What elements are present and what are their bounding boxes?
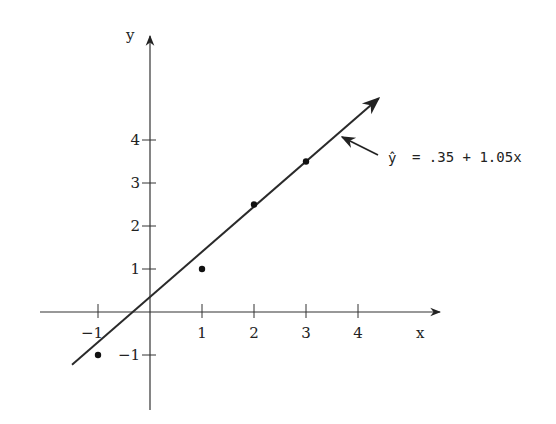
y-tick-label: 2	[130, 217, 140, 235]
y-tick-label: 3	[130, 174, 140, 192]
annotation-arrow	[342, 137, 378, 155]
equation-text: = .35 + 1.05x	[412, 149, 522, 165]
x-tick-label: 3	[301, 324, 311, 342]
y-tick-label: −1	[118, 346, 140, 364]
y-tick-label: 1	[130, 260, 140, 278]
data-point	[303, 158, 309, 164]
x-axis-label: x	[416, 324, 425, 342]
fitted-line	[72, 98, 379, 364]
y-tick-label: 4	[130, 131, 140, 149]
x-tick-label: 2	[249, 324, 259, 342]
data-point	[251, 201, 257, 207]
regression-line	[72, 98, 379, 364]
y-axis-label: y	[125, 26, 135, 44]
ticks: −11234−11234	[81, 131, 363, 364]
data-point	[95, 352, 101, 358]
regression-plot: −11234−11234 x y ŷ = .35 + 1.05x	[0, 0, 556, 424]
equation-annotation: ŷ = .35 + 1.05x	[342, 137, 522, 166]
x-tick-label: 1	[197, 324, 207, 342]
x-tick-label: 4	[353, 324, 363, 342]
data-point	[199, 266, 205, 272]
yhat-symbol: ŷ	[388, 150, 396, 166]
